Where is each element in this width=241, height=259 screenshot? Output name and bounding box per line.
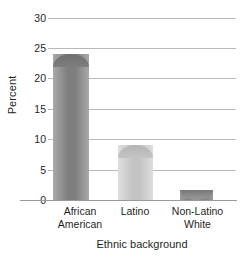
y-tick-label: 5 — [20, 165, 46, 176]
plot-area — [48, 18, 236, 200]
gridline-30 — [48, 18, 236, 19]
bar-fill — [180, 191, 213, 200]
y-tick-label: 20 — [20, 73, 46, 84]
bar-latino[interactable] — [118, 145, 153, 200]
y-tick-label: 25 — [20, 43, 46, 54]
x-axis-title: Ethnic background — [48, 238, 236, 250]
bar-african-american[interactable] — [53, 54, 89, 200]
bar-chart: Percent 30 25 20 15 10 5 0 African Ameri… — [0, 0, 241, 259]
y-axis-tick-labels: 30 25 20 15 10 5 0 — [20, 0, 46, 210]
y-tick-label: 10 — [20, 134, 46, 145]
x-tick-label-non-latino-white: Non-Latino White — [155, 205, 240, 230]
y-tick-label: 30 — [20, 13, 46, 24]
bar-non-latino-white[interactable] — [180, 191, 213, 200]
bar-fill — [53, 54, 89, 200]
gridline-25 — [48, 48, 236, 49]
x-axis-line — [20, 200, 237, 201]
y-axis-title: Percent — [6, 65, 20, 125]
bar-fill — [118, 145, 153, 200]
y-tick-label: 15 — [20, 104, 46, 115]
x-axis-tick-labels: African American Latino Non-Latino White — [0, 205, 241, 237]
